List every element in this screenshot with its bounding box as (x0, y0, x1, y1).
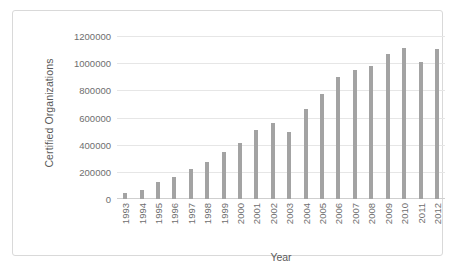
bar (287, 132, 291, 200)
x-axis-tick-label: 2009 (382, 203, 393, 224)
bar-slot (363, 36, 379, 199)
x-axis-tick-label: 2004 (300, 203, 311, 224)
bar (189, 169, 193, 199)
bar-slot (199, 36, 215, 199)
bar-series (117, 36, 445, 199)
x-tick-slot: 1996 (166, 201, 182, 247)
bar (402, 48, 406, 199)
bar-slot (297, 36, 313, 199)
bar-slot (396, 36, 412, 199)
y-axis-tick-label: 1200000 (49, 31, 111, 42)
bar-slot (314, 36, 330, 199)
x-tick-slot: 2010 (396, 201, 412, 247)
bar (386, 54, 390, 199)
x-axis-tick-label: 2002 (267, 203, 278, 224)
bar-slot (330, 36, 346, 199)
x-axis-tick-label: 2007 (349, 203, 360, 224)
x-axis-tick-label: 1999 (218, 203, 229, 224)
x-tick-slot: 2007 (347, 201, 363, 247)
bar (140, 190, 144, 200)
x-tick-slot: 2012 (429, 201, 445, 247)
x-axis-tick-label: 2011 (415, 203, 426, 223)
bar-slot (412, 36, 428, 199)
x-axis-tick-label: 2012 (431, 203, 442, 224)
x-axis-tick-label: 1994 (136, 203, 147, 224)
x-axis-tick-label: 1997 (185, 203, 196, 224)
x-tick-slot: 2000 (232, 201, 248, 247)
bar (369, 66, 373, 199)
y-axis-tick-label: 400000 (49, 139, 111, 150)
y-axis-tick-label: 800000 (49, 85, 111, 96)
x-tick-slot: 2005 (314, 201, 330, 247)
y-axis-tick-label: 200000 (49, 166, 111, 177)
x-axis-tick-labels: 1993199419951996199719981999200020012002… (117, 201, 445, 247)
bar (320, 94, 324, 199)
bar-slot (232, 36, 248, 199)
bar (156, 182, 160, 199)
x-tick-slot: 2004 (297, 201, 313, 247)
x-axis-tick-label: 2010 (399, 203, 410, 224)
x-tick-slot: 2003 (281, 201, 297, 247)
x-tick-slot: 2006 (330, 201, 346, 247)
bar-slot (248, 36, 264, 199)
x-axis-tick-label: 2008 (366, 203, 377, 224)
x-axis-tick-label: 1998 (202, 203, 213, 224)
x-axis-tick-label: 1996 (169, 203, 180, 224)
bar (222, 152, 226, 199)
bar (172, 177, 176, 199)
bar-slot (166, 36, 182, 199)
bar-slot (281, 36, 297, 199)
bar-slot (429, 36, 445, 199)
y-axis-tick-label: 0 (49, 194, 111, 205)
x-axis-tick-label: 2005 (317, 203, 328, 224)
bar (254, 130, 258, 199)
y-axis-tick-labels: 120000010000008000006000004000002000000 (49, 36, 111, 199)
bar-slot (347, 36, 363, 199)
bar-slot (215, 36, 231, 199)
x-axis-tick-label: 1993 (120, 203, 131, 224)
x-tick-slot: 1993 (117, 201, 133, 247)
x-axis-tick-label: 2000 (235, 203, 246, 224)
x-tick-slot: 1998 (199, 201, 215, 247)
x-axis-tick-label: 2003 (284, 203, 295, 224)
bar (123, 193, 127, 199)
x-tick-slot: 2009 (380, 201, 396, 247)
bar (205, 162, 209, 199)
bar (336, 77, 340, 199)
bar-slot (380, 36, 396, 199)
bar-slot (265, 36, 281, 199)
x-axis-tick-label: 1995 (153, 203, 164, 224)
x-tick-slot: 2001 (248, 201, 264, 247)
bar (238, 143, 242, 199)
bar (271, 123, 275, 199)
x-tick-slot: 2011 (412, 201, 428, 247)
plot-area (117, 36, 445, 199)
x-tick-slot: 1995 (150, 201, 166, 247)
y-axis-tick-label: 1000000 (49, 58, 111, 69)
x-tick-slot: 1994 (133, 201, 149, 247)
bar (419, 62, 423, 199)
x-tick-slot: 1997 (183, 201, 199, 247)
bar-slot (150, 36, 166, 199)
x-axis-tick-label: 2001 (251, 203, 262, 224)
bar-slot (183, 36, 199, 199)
chart-container: Certified Organizations 1200000100000080… (12, 10, 443, 256)
bar (435, 49, 439, 199)
x-axis-tick-label: 2006 (333, 203, 344, 224)
x-axis-title: Year (117, 251, 445, 263)
x-tick-slot: 2002 (265, 201, 281, 247)
bar (353, 70, 357, 199)
bar (304, 109, 308, 199)
y-axis-tick-label: 600000 (49, 112, 111, 123)
x-tick-slot: 1999 (215, 201, 231, 247)
bar-slot (133, 36, 149, 199)
x-tick-slot: 2008 (363, 201, 379, 247)
bar-slot (117, 36, 133, 199)
